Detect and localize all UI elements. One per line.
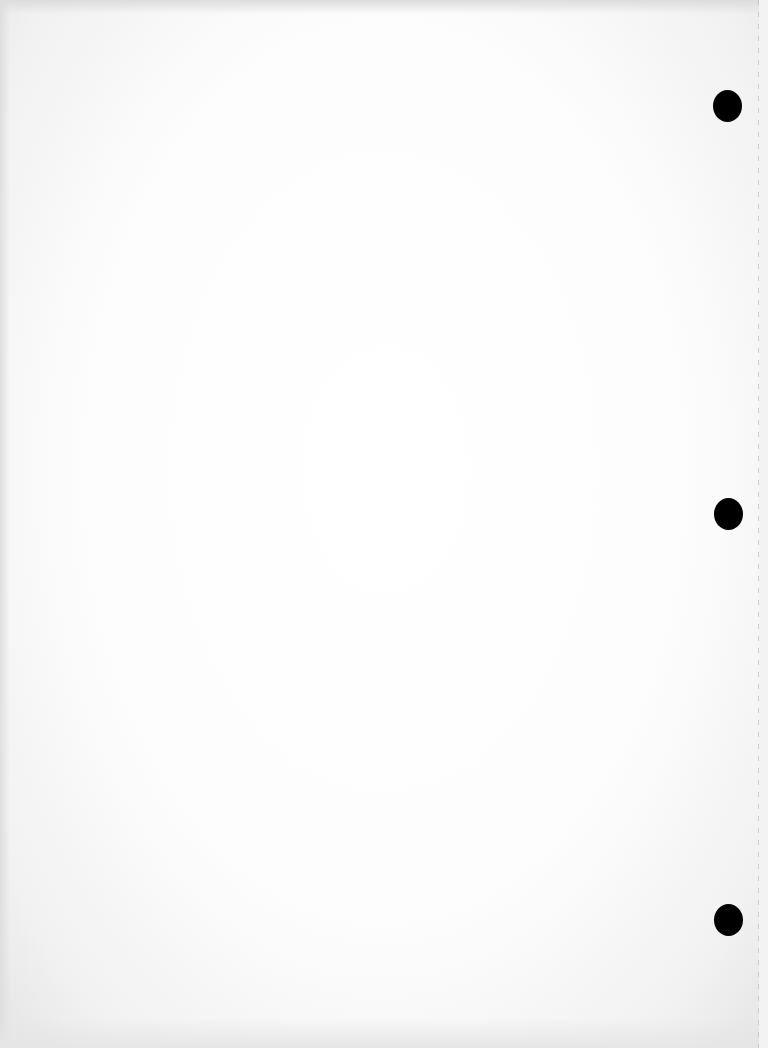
scan-edge-left: [0, 0, 10, 1048]
scan-edge-top: [0, 0, 768, 14]
punch-hole-middle: [714, 498, 743, 530]
punch-hole-bottom: [714, 904, 743, 936]
perforation-line: [758, 0, 759, 1048]
scan-edge-bottom: [0, 1018, 768, 1048]
scan-edge-right: [759, 0, 768, 1048]
punch-hole-top: [713, 90, 742, 122]
blank-page: [0, 0, 768, 1048]
